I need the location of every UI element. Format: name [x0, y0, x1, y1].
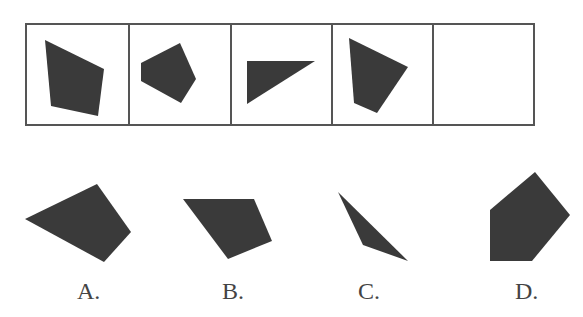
answer-options: [25, 172, 570, 262]
option-d-shape[interactable]: [490, 172, 570, 261]
option-b-label[interactable]: B.: [222, 279, 244, 303]
sequence-shape-2-pentagon: [141, 43, 196, 103]
sequence-grid: [26, 24, 534, 125]
puzzle-canvas: [0, 0, 583, 317]
option-d-label[interactable]: D.: [515, 279, 538, 303]
option-c-shape[interactable]: [338, 192, 408, 261]
option-a-label[interactable]: A.: [77, 279, 100, 303]
sequence-cell-5-empty[interactable]: [434, 25, 533, 124]
sequence-shape-4-quadrilateral: [349, 38, 408, 113]
option-a-shape[interactable]: [25, 184, 131, 262]
sequence-shape-3-triangle: [247, 61, 315, 104]
option-b-shape[interactable]: [183, 199, 272, 259]
sequence-shape-1-quadrilateral: [45, 40, 104, 116]
option-c-label[interactable]: C.: [358, 279, 380, 303]
